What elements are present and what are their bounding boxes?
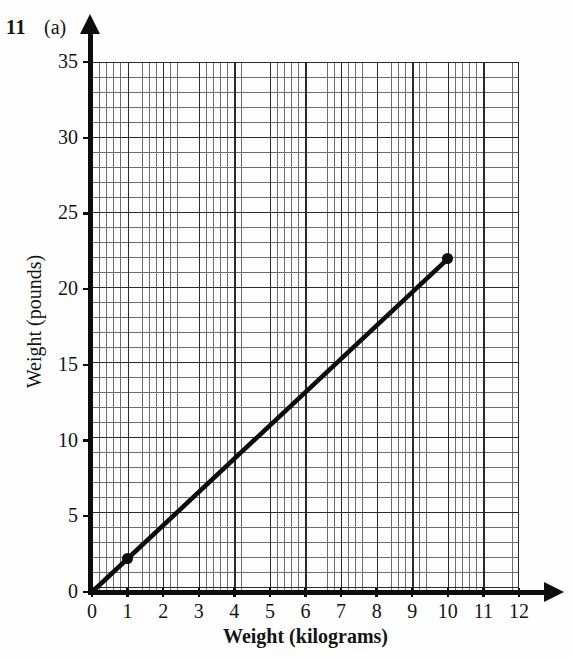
x-axis-line [88, 590, 548, 595]
x-axis-title: Weight (kilograms) [92, 625, 519, 648]
y-axis-tick-label: 35 [44, 51, 78, 71]
y-axis-tick [83, 288, 92, 290]
x-axis-tick [198, 588, 200, 597]
y-axis-tick-label: 15 [44, 354, 78, 374]
x-axis-tick [482, 588, 484, 597]
y-axis-tick-label: 10 [44, 430, 78, 450]
x-axis-tick-label: 11 [466, 600, 500, 622]
x-axis-tick-label: 4 [217, 600, 251, 622]
y-axis-tick-label: 25 [44, 202, 78, 222]
grid-top-edge [92, 62, 519, 63]
conversion-graph: 05101520253035 0123456789101112 Weight (… [0, 0, 572, 659]
x-axis-tick [304, 588, 306, 597]
y-axis-tick-label: 20 [44, 278, 78, 298]
x-axis-arrow-icon [544, 582, 564, 602]
x-axis-tick [126, 588, 128, 597]
x-axis-tick-label: 2 [146, 600, 180, 622]
y-axis-tick-label: 5 [44, 505, 78, 525]
x-axis-tick [233, 588, 235, 597]
x-axis-tick [518, 588, 520, 597]
x-axis-tick [269, 588, 271, 597]
y-axis-arrow-icon [80, 14, 100, 34]
y-axis-title: Weight (pounds) [23, 192, 46, 452]
y-axis-tick-label: 0 [44, 581, 78, 601]
x-axis-tick-label: 0 [75, 600, 109, 622]
y-axis-tick [83, 212, 92, 214]
y-axis-tick [83, 61, 92, 63]
y-axis-line [88, 30, 93, 592]
x-axis-tick-label: 10 [431, 600, 465, 622]
plot-grid-area [92, 62, 519, 592]
x-axis-tick [447, 588, 449, 597]
x-axis-tick-label: 1 [111, 600, 145, 622]
x-axis-tick-label: 12 [502, 600, 536, 622]
y-axis-tick [83, 439, 92, 441]
x-axis-tick-label: 6 [289, 600, 323, 622]
x-axis-tick [411, 588, 413, 597]
x-axis-tick-label: 5 [253, 600, 287, 622]
worksheet-page: 11 (a) 05101520253035 0123456789101112 W… [0, 0, 572, 659]
x-axis-tick [162, 588, 164, 597]
x-axis-tick [91, 588, 93, 597]
grid-lines [92, 62, 519, 592]
y-axis-tick [83, 515, 92, 517]
x-axis-tick-label: 9 [395, 600, 429, 622]
x-axis-tick [375, 588, 377, 597]
x-axis-tick-label: 8 [360, 600, 394, 622]
y-axis-tick [83, 137, 92, 139]
x-axis-tick [340, 588, 342, 597]
x-axis-tick-label: 3 [182, 600, 216, 622]
y-axis-tick [83, 364, 92, 366]
grid-right-edge [518, 62, 519, 592]
x-axis-tick-label: 7 [324, 600, 358, 622]
y-axis-tick-label: 30 [44, 127, 78, 147]
